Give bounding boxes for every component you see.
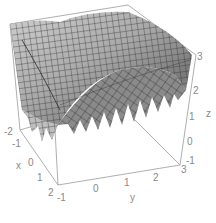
y-tick: -1 <box>57 192 66 203</box>
x-tick: -1 <box>12 138 21 149</box>
z-tick: 3 <box>197 51 203 62</box>
y-tick: 1 <box>124 177 130 188</box>
x-tick: -2 <box>4 126 13 137</box>
y-axis-label: y <box>130 192 135 203</box>
z-axis-ticks: -1 0 1 2 3 z <box>186 51 211 166</box>
z-tick: 0 <box>187 136 193 147</box>
y-axis-ticks: -1 0 1 2 3 y <box>57 164 187 203</box>
x-axis-ticks: -2 -1 0 1 2 x <box>4 126 54 198</box>
x-tick: 1 <box>37 172 43 183</box>
y-tick: 2 <box>153 172 159 183</box>
y-tick: 0 <box>93 183 99 194</box>
x-axis-label: x <box>16 160 21 171</box>
surface-mesh <box>10 12 192 142</box>
z-tick: 1 <box>189 111 195 122</box>
z-axis-label: z <box>206 108 211 119</box>
z-tick: 2 <box>193 85 199 96</box>
surface-plot: -2 -1 0 1 2 x -1 0 1 2 3 y -1 0 1 2 3 z <box>0 0 216 223</box>
x-tick: 0 <box>28 157 34 168</box>
x-tick: 2 <box>48 187 54 198</box>
z-tick: -1 <box>186 155 195 166</box>
